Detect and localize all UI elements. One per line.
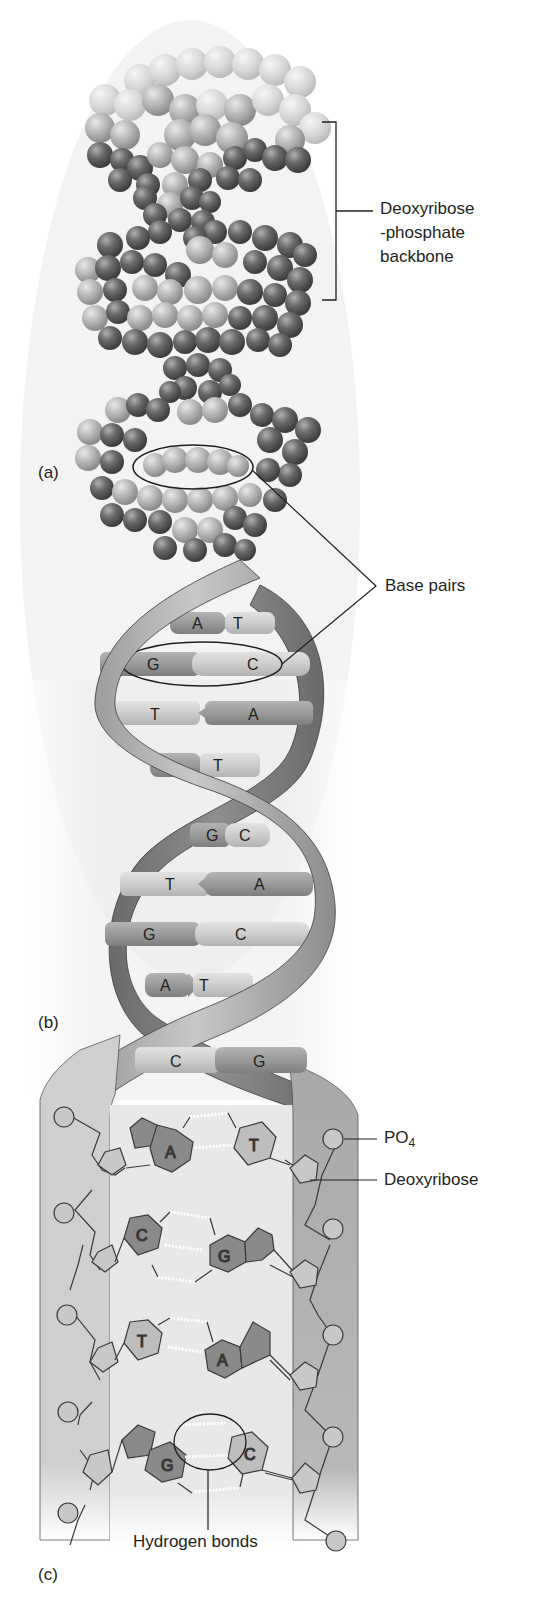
backbone-label-line1: Deoxyribose — [380, 197, 475, 221]
svg-text:A: A — [254, 876, 265, 893]
chemical-schematic: C G — [40, 1035, 358, 1551]
svg-text:G: G — [218, 1248, 230, 1265]
backbone-label: Deoxyribose -phosphate backbone — [380, 197, 475, 269]
svg-text:T: T — [199, 977, 209, 994]
svg-text:G: G — [143, 926, 155, 943]
bar-row-3: T A — [100, 701, 313, 725]
svg-text:G: G — [161, 1457, 173, 1474]
phosphate-left-2 — [54, 1203, 74, 1223]
svg-text:T: T — [249, 1137, 259, 1154]
svg-text:C: C — [235, 926, 247, 943]
phosphate-left-4 — [58, 1402, 78, 1422]
phosphate-left-3 — [57, 1305, 77, 1325]
svg-text:T: T — [137, 1333, 147, 1350]
phosphate-right-4 — [323, 1427, 343, 1447]
backbone-label-line2: -phosphate — [380, 221, 475, 245]
phosphate-left-1 — [54, 1107, 74, 1127]
backbone-label-line3: backbone — [380, 245, 475, 269]
svg-text:A: A — [248, 706, 259, 723]
svg-text:C: C — [239, 827, 251, 844]
bar-row-9: C G — [135, 1047, 307, 1073]
phosphate-right-2 — [323, 1219, 343, 1239]
phosphate-right-3 — [323, 1325, 343, 1345]
svg-text:G: G — [206, 827, 218, 844]
svg-text:T: T — [165, 876, 175, 893]
bar-row-6: T A — [120, 872, 313, 896]
bar-row-7: G C — [105, 922, 310, 946]
base-pairs-label: Base pairs — [385, 574, 465, 598]
phosphate-left-5 — [58, 1503, 78, 1523]
bar-row-5: G C — [190, 823, 270, 847]
svg-text:C: C — [247, 656, 259, 673]
phosphate-label-subscript: 4 — [409, 1136, 416, 1150]
svg-text:T: T — [233, 615, 243, 632]
svg-text:G: G — [253, 1053, 265, 1070]
dna-structure-figure: A T G C T A — [0, 0, 543, 1615]
panel-label-b: (b) — [38, 1013, 59, 1033]
phosphate-label: PO4 — [384, 1126, 415, 1155]
deoxyribose-label: Deoxyribose — [384, 1168, 479, 1192]
phosphate-label-text: PO — [384, 1128, 409, 1147]
svg-text:C: C — [136, 1227, 148, 1244]
svg-text:C: C — [170, 1053, 182, 1070]
panel-label-a: (a) — [38, 463, 59, 483]
svg-text:T: T — [213, 757, 223, 774]
atoms-middle-band — [75, 220, 317, 358]
svg-text:A: A — [160, 977, 171, 994]
panel-label-c: (c) — [38, 1565, 58, 1585]
phosphate-right-1 — [323, 1129, 343, 1149]
phosphate-right-5 — [326, 1531, 346, 1551]
bar-row-1: A T — [170, 612, 275, 634]
svg-text:G: G — [147, 656, 159, 673]
hydrogen-bonds-label: Hydrogen bonds — [133, 1530, 258, 1554]
svg-text:T: T — [150, 706, 160, 723]
svg-text:A: A — [192, 615, 203, 632]
svg-text:A: A — [165, 1144, 176, 1161]
svg-text:A: A — [217, 1352, 228, 1369]
